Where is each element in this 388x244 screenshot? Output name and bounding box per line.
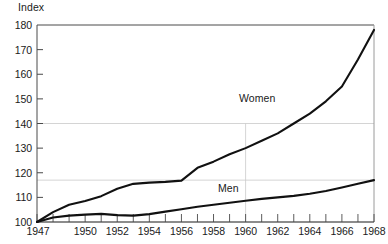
x-tick-label-text: 1958	[202, 225, 225, 237]
series-label-men: Men	[218, 182, 239, 194]
x-tick-label-text: 1954	[138, 225, 161, 237]
y-axis-title: Index	[18, 1, 44, 13]
data-series-lines	[37, 30, 374, 222]
series-label-women: Women	[239, 92, 276, 104]
y-tick-label-text: 150	[0, 93, 32, 105]
y-tick-label-text: 170	[0, 44, 32, 56]
x-tick-label-text: 1956	[170, 225, 193, 237]
x-tick-label-text: 1962	[266, 225, 289, 237]
x-tick-label-text: 1950	[74, 225, 97, 237]
y-tick-label-text: 130	[0, 142, 32, 154]
axis-tick-marks	[37, 50, 374, 222]
series-line-women	[37, 30, 374, 222]
index-line-chart: Index 100110120130140150160170180 194719…	[0, 0, 388, 244]
gridlines	[37, 124, 374, 223]
x-tick-label-text: 1964	[298, 225, 321, 237]
x-tick-label-text: 1952	[106, 225, 129, 237]
x-tick-label-text: 1966	[330, 225, 353, 237]
y-tick-label-text: 140	[0, 118, 32, 130]
y-tick-label-text: 160	[0, 68, 32, 80]
y-tick-label-text: 120	[0, 167, 32, 179]
x-tick-label-text: 1947	[26, 225, 49, 237]
plot-area	[0, 0, 388, 244]
y-tick-label-text: 110	[0, 191, 32, 203]
x-tick-label-text: 1960	[234, 225, 257, 237]
y-tick-label-text: 180	[0, 19, 32, 31]
x-tick-label-text: 1968	[363, 225, 386, 237]
